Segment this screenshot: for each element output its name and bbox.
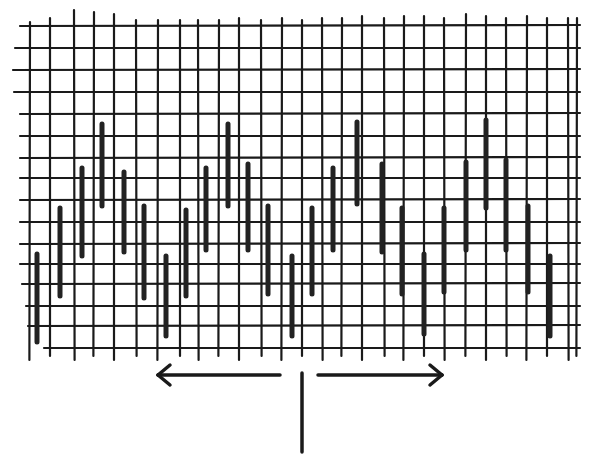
grid-vertical-line [157,20,158,360]
grid-diagram [0,0,595,460]
grid-horizontal-line [22,283,580,284]
direction-annotations [158,365,442,452]
grid-vertical-line [74,10,75,360]
grid-vertical-line [198,20,199,360]
grid-vertical-lines [29,10,577,360]
grid-vertical-line [93,12,94,356]
grid-horizontal-line [13,69,580,70]
grid-horizontal-line [20,113,580,114]
grid-horizontal-lines [13,25,580,348]
grid-horizontal-line [20,243,580,244]
diagram-canvas [0,0,595,460]
grid-horizontal-line [28,325,580,326]
grid-vertical-line [403,16,404,360]
grid-horizontal-line [20,25,580,26]
grid-vertical-line [526,16,527,360]
grid-vertical-line [29,22,30,360]
